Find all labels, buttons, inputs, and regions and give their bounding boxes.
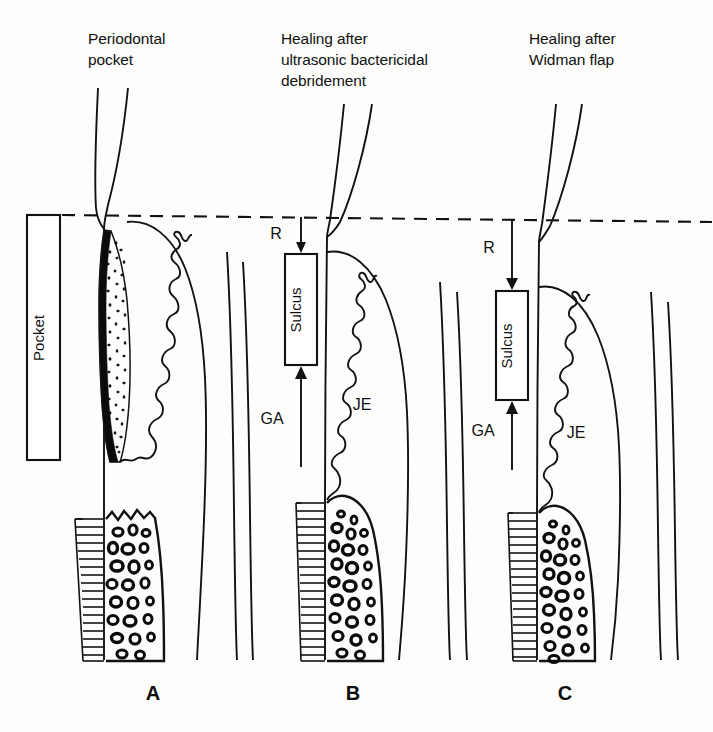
panel-c-gain-of-attachment-arrow xyxy=(506,401,518,470)
panel-b-pdl-hatching xyxy=(296,503,325,661)
panel-a-crown-distal-line xyxy=(104,88,128,229)
panel-b-trabecular-bone xyxy=(329,511,377,659)
panel-a-title-line-2: pocket xyxy=(88,51,134,68)
panel-b-distal-boundary-line xyxy=(440,282,450,660)
panel-c-trabecular-bone xyxy=(541,521,589,663)
panel-b-gain-of-attachment-arrow xyxy=(295,366,307,467)
panel-a-crown-mesial-line xyxy=(95,88,104,229)
panel-b-gain-of-attachment-label: GA xyxy=(260,410,283,427)
panel-c-pdl-hatching xyxy=(508,513,537,661)
panel-c-title-line-1: Healing after xyxy=(529,30,616,47)
panel-c-recession-arrow xyxy=(506,220,518,290)
panel-b-recession-label: R xyxy=(270,225,282,242)
panel-c-sulcus-label: Sulcus xyxy=(498,323,515,368)
panel-c-root-surface-line xyxy=(537,242,539,660)
panel-b-recession-arrow xyxy=(296,217,306,253)
panel-a-distal-boundary-line xyxy=(227,252,237,660)
panel-b-letter: B xyxy=(346,682,360,704)
periodontal-healing-figure: Periodontal pocket Healing after ultraso… xyxy=(0,0,713,732)
panel-b-title: Healing after ultrasonic bactericidal de… xyxy=(281,30,428,89)
panel-a-title: Periodontal pocket xyxy=(88,30,165,68)
panel-a-trabecular-bone xyxy=(107,525,155,659)
panel-b-group: R Sulcus GA JE xyxy=(260,104,408,704)
panel-b-title-line-3: debridement xyxy=(281,72,367,89)
panel-c-letter: C xyxy=(558,682,572,704)
panel-b-junctional-epithelium-border xyxy=(327,273,377,500)
panel-a-pdl-hatching xyxy=(75,519,104,661)
panel-a-gingiva-outer-contour xyxy=(127,222,206,660)
panel-b-sulcus-label: Sulcus xyxy=(287,287,304,332)
panel-a-letter: A xyxy=(146,682,160,704)
pocket-label-text: Pocket xyxy=(30,314,47,361)
panel-b-title-line-2: ultrasonic bactericidal xyxy=(281,51,428,68)
panel-c-distal-boundary-line xyxy=(651,292,661,660)
panel-c-gain-of-attachment-label: GA xyxy=(471,422,494,439)
panel-a-gingiva-inner-wavy-border xyxy=(120,232,192,462)
panel-b-distal-boundary-line-2 xyxy=(457,292,467,660)
panel-a-group: Pocket xyxy=(27,88,206,704)
panel-a-title-line-1: Periodontal xyxy=(88,30,165,47)
panel-a-distal-boundary-line-2 xyxy=(243,262,253,660)
panel-b-je-label: JE xyxy=(353,396,372,413)
figure-canvas: Periodontal pocket Healing after ultraso… xyxy=(0,0,713,732)
panel-c-je-label: JE xyxy=(567,424,586,441)
cej-reference-dashed-line xyxy=(62,215,712,222)
panel-c-title: Healing after Widman flap xyxy=(529,30,616,68)
panel-c-distal-boundary-line-2 xyxy=(668,302,678,660)
panel-c-group: R Sulcus GA JE xyxy=(471,104,620,704)
panel-c-junctional-epithelium-border xyxy=(539,292,590,512)
panel-c-recession-label: R xyxy=(483,239,495,256)
panel-b-title-line-1: Healing after xyxy=(281,30,368,47)
panel-c-title-line-2: Widman flap xyxy=(529,51,614,68)
panel-b-root-surface-line xyxy=(325,237,327,660)
